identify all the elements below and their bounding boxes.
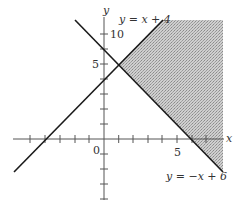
line-y-equals-x-plus-4 — [14, 20, 163, 172]
y-tick-label-5: 5 — [92, 58, 99, 71]
y-tick-label-10: 10 — [110, 28, 124, 41]
shaded-region — [119, 20, 223, 172]
line1-label: y = x + 4 — [118, 13, 171, 26]
y-axis-label: y — [102, 4, 110, 17]
x-tick-label-5: 5 — [174, 146, 181, 159]
inequality-graph: y x 10 5 0 5 y = x + 4 y = −x + 6 — [0, 0, 241, 208]
origin-label: 0 — [93, 144, 100, 157]
line2-label: y = −x + 6 — [165, 170, 227, 183]
x-axis-label: x — [226, 132, 233, 145]
